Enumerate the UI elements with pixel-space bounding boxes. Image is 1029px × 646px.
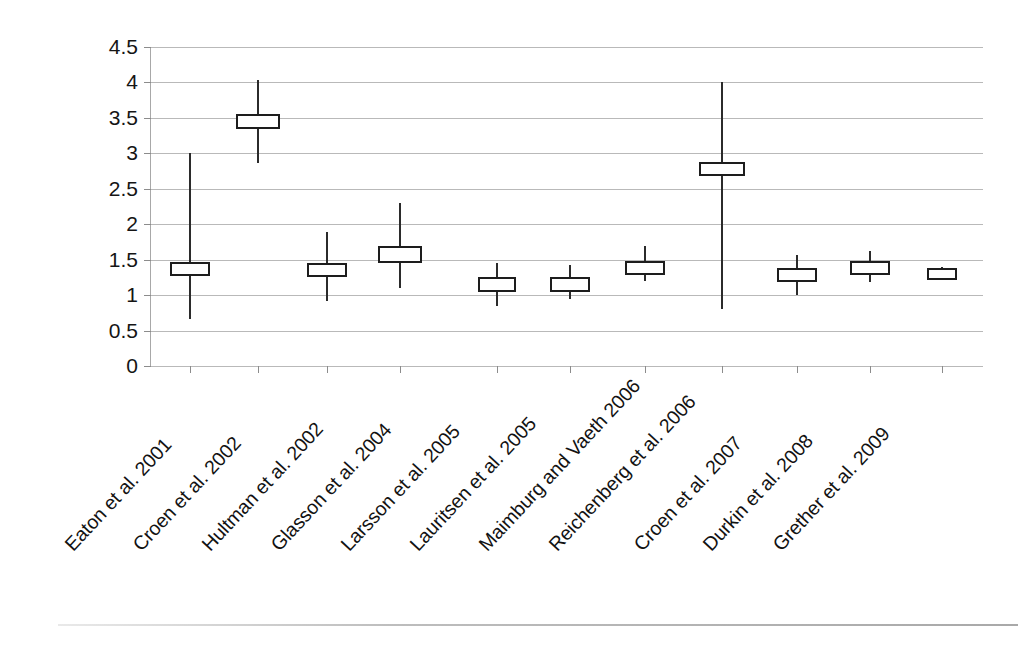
- point-estimate-box: [478, 277, 516, 291]
- data-point-group[interactable]: [682, 47, 762, 366]
- x-axis-tick: [722, 366, 723, 373]
- x-axis-tick: [327, 366, 328, 373]
- chart-page: Relative risk 00.511.522.533.544.5 Eaton…: [0, 0, 1029, 646]
- data-point-group[interactable]: [287, 47, 367, 366]
- data-point-group[interactable]: [530, 47, 610, 366]
- gridline: [150, 366, 983, 367]
- x-axis-category-label[interactable]: Larsson et al. 2005: [336, 420, 465, 556]
- x-axis-tick: [797, 366, 798, 373]
- x-axis-tick: [870, 366, 871, 373]
- data-point-group[interactable]: [605, 47, 685, 366]
- point-estimate-box: [307, 263, 347, 277]
- point-estimate-box: [170, 262, 210, 276]
- y-axis-tick-label: 0: [72, 355, 138, 376]
- y-axis-tick-label: 2: [72, 213, 138, 234]
- point-estimate-box: [378, 246, 422, 263]
- y-axis-tick-label: 2.5: [72, 178, 138, 199]
- x-axis-tick: [570, 366, 571, 373]
- point-estimate-box: [927, 268, 957, 279]
- x-axis-tick: [400, 366, 401, 373]
- point-estimate-box: [625, 261, 665, 275]
- point-estimate-box: [550, 277, 590, 291]
- confidence-interval-whisker: [721, 82, 723, 309]
- x-axis-category-label[interactable]: Grether et al. 2009: [768, 422, 894, 555]
- point-estimate-box: [777, 268, 817, 282]
- y-axis-tick-label: 3: [72, 142, 138, 163]
- y-axis-tick-label: 3.5: [72, 107, 138, 128]
- confidence-interval-whisker: [189, 153, 191, 319]
- data-point-group[interactable]: [360, 47, 440, 366]
- data-point-group[interactable]: [218, 47, 298, 366]
- y-axis-tick-label: 4: [72, 71, 138, 92]
- x-axis-tick: [645, 366, 646, 373]
- x-axis-tick: [258, 366, 259, 373]
- data-point-group[interactable]: [902, 47, 982, 366]
- x-axis-category-label[interactable]: Glasson et al. 2004: [266, 418, 396, 555]
- x-axis-category-label[interactable]: Lauritsen et al. 2005: [405, 412, 541, 555]
- y-axis-tick-label: 1: [72, 284, 138, 305]
- data-point-group[interactable]: [457, 47, 537, 366]
- point-estimate-box: [699, 162, 745, 176]
- data-point-group[interactable]: [830, 47, 910, 366]
- point-estimate-box: [236, 114, 280, 128]
- data-point-group[interactable]: [757, 47, 837, 366]
- x-axis-tick: [497, 366, 498, 373]
- footer-rule: [58, 624, 1018, 626]
- x-axis-tick: [942, 366, 943, 373]
- y-axis-tick: [144, 366, 151, 367]
- x-axis-category-label[interactable]: Hultman et al. 2002: [197, 418, 328, 556]
- y-axis-tick-label: 4.5: [72, 36, 138, 57]
- plot-area: [150, 47, 983, 366]
- x-axis-tick: [190, 366, 191, 373]
- point-estimate-box: [850, 261, 890, 275]
- y-axis-tick-label: 1.5: [72, 249, 138, 270]
- y-axis-tick-label: 0.5: [72, 320, 138, 341]
